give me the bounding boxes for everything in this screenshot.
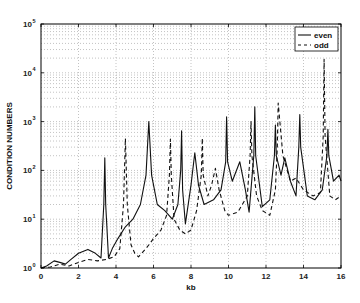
y-tick-exponent: 0 bbox=[33, 262, 36, 268]
y-tick-label: 10 bbox=[23, 118, 32, 127]
condition-number-chart: 0246810121416 100101102103104105 kb COND… bbox=[0, 0, 360, 303]
y-tick-label: 10 bbox=[23, 20, 32, 29]
y-axis-label: CONDITION NUMBERS bbox=[5, 102, 14, 190]
x-tick-label: 0 bbox=[39, 272, 44, 281]
x-tick-label: 6 bbox=[151, 272, 156, 281]
y-tick-exponent: 2 bbox=[33, 164, 36, 170]
x-tick-label: 16 bbox=[337, 272, 346, 281]
x-axis-label: kb bbox=[186, 283, 195, 292]
y-tick-exponent: 3 bbox=[33, 115, 36, 121]
x-tick-label: 12 bbox=[262, 272, 271, 281]
x-tick-labels: 0246810121416 bbox=[39, 272, 346, 281]
y-tick-label: 10 bbox=[23, 69, 32, 78]
x-tick-label: 2 bbox=[76, 272, 81, 281]
y-tick-label: 10 bbox=[23, 166, 32, 175]
y-tick-label: 10 bbox=[23, 264, 32, 273]
grid-lines bbox=[41, 24, 341, 268]
y-tick-labels: 100101102103104105 bbox=[23, 18, 36, 274]
legend-label-odd: odd bbox=[314, 41, 329, 50]
x-tick-label: 4 bbox=[114, 272, 119, 281]
y-tick-exponent: 5 bbox=[33, 18, 36, 24]
y-tick-exponent: 4 bbox=[33, 66, 37, 72]
y-tick-label: 10 bbox=[23, 215, 32, 224]
legend-label-even: even bbox=[314, 31, 332, 40]
x-tick-label: 14 bbox=[299, 272, 308, 281]
y-tick-exponent: 1 bbox=[33, 213, 36, 219]
x-tick-label: 10 bbox=[224, 272, 233, 281]
legend: even odd bbox=[295, 27, 338, 51]
x-tick-label: 8 bbox=[189, 272, 194, 281]
